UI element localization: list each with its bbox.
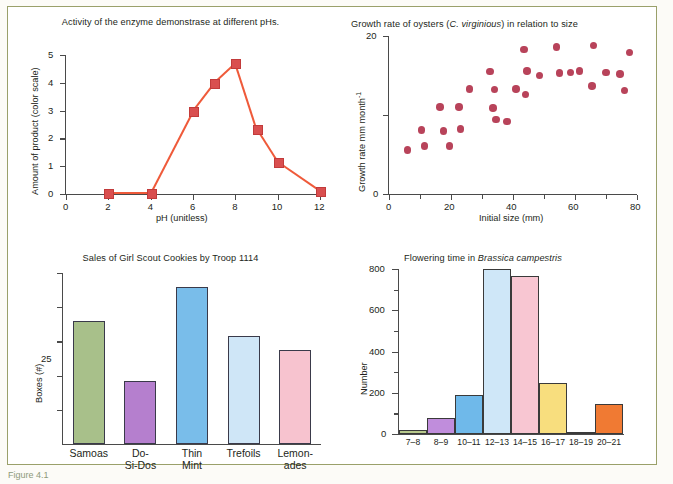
flowering-y-tick	[392, 269, 398, 270]
cookie-y-tick	[57, 376, 62, 377]
flowering-title-pre: Flowering time in	[404, 253, 478, 263]
oyster-title-pre: Growth rate of oysters (	[351, 19, 449, 29]
enzyme-y-tick	[60, 166, 65, 167]
oyster-data-point	[436, 103, 444, 111]
cookie-bar	[176, 287, 208, 444]
cookie-bar-label: Samoas	[63, 447, 115, 459]
enzyme-data-marker	[210, 79, 220, 89]
enzyme-y-tick	[60, 83, 65, 84]
oyster-chart-title: Growth rate of oysters (C. virginious) i…	[351, 19, 641, 29]
oyster-data-point	[556, 69, 564, 77]
oyster-x-tick-minor	[606, 195, 607, 199]
flowering-bar-label: 8–9	[427, 437, 455, 447]
oyster-data-point	[512, 85, 520, 93]
enzyme-x-ticklabel: 12	[314, 202, 325, 212]
oyster-y-ticklabel: 0	[373, 189, 378, 199]
oyster-y-ticklabel: 20	[366, 31, 377, 41]
oyster-x-ticklabel: 40	[506, 202, 517, 212]
figure-frame: Activity of the enzyme demonstrase at di…	[7, 6, 657, 465]
flowering-y-ticklabel: 600	[369, 305, 385, 315]
enzyme-data-marker	[253, 125, 263, 135]
oyster-data-point	[486, 68, 494, 76]
flowering-x-axis	[398, 434, 624, 435]
oyster-data-point	[590, 42, 598, 50]
oyster-data-point	[404, 146, 412, 154]
enzyme-plot-area: 0 1 2 3 4 5 0 2 4 6 8 10 12	[66, 55, 320, 194]
flowering-y-tick	[392, 310, 398, 311]
oyster-data-point	[576, 67, 584, 75]
cookie-category-labels: SamoasDo- Si-DosThin MintTrefoilsLemon- …	[63, 447, 321, 475]
cookie-bar	[73, 321, 105, 444]
enzyme-y-ticklabel: 4	[48, 78, 53, 88]
enzyme-x-axis-title: pH (unitless)	[156, 213, 208, 223]
enzyme-x-ticklabel: 10	[272, 202, 283, 212]
cookie-x-axis	[62, 444, 321, 445]
flowering-bar	[427, 418, 455, 435]
enzyme-x-tick	[278, 195, 279, 200]
panel-oyster-growth: Growth rate of oysters (C. virginious) i…	[333, 7, 658, 235]
flowering-y-tick-minor	[394, 413, 398, 414]
oyster-y-tick	[383, 194, 388, 195]
flowering-bar-series	[399, 269, 623, 434]
flowering-bar	[483, 269, 511, 434]
flowering-plot-area: 0 200 400 600 800	[399, 269, 623, 434]
cookie-bar-series	[63, 273, 321, 444]
cookie-y-ticklabel: 25	[41, 354, 52, 364]
flowering-bar	[511, 276, 539, 434]
oyster-data-point	[503, 118, 511, 126]
enzyme-data-marker	[104, 189, 114, 199]
oyster-data-point	[602, 69, 610, 77]
oyster-data-point	[520, 46, 528, 54]
cookie-bar-label: Do- Si-Dos	[115, 447, 167, 471]
oyster-data-point	[492, 116, 500, 124]
oyster-x-tick	[637, 195, 638, 200]
oyster-title-species: C. virginious	[449, 19, 501, 29]
enzyme-data-marker	[316, 187, 326, 197]
enzyme-x-ticklabel: 0	[63, 202, 68, 212]
enzyme-data-series	[66, 55, 320, 194]
oyster-x-tick	[389, 195, 390, 200]
panel-enzyme-activity: Activity of the enzyme demonstrase at di…	[8, 7, 333, 235]
flowering-y-tick-minor	[394, 331, 398, 332]
enzyme-y-axis-title: Amount of product (color scale)	[30, 67, 40, 195]
oyster-data-point	[440, 127, 448, 135]
enzyme-x-ticklabel: 6	[190, 202, 195, 212]
enzyme-y-ticklabel: 2	[48, 133, 53, 143]
flowering-y-tick-minor	[394, 290, 398, 291]
panel-cookie-sales: Sales of Girl Scout Cookies by Troop 111…	[8, 235, 333, 466]
enzyme-line-segment	[108, 192, 150, 194]
enzyme-y-ticklabel: 0	[48, 189, 53, 199]
enzyme-data-marker	[231, 59, 241, 69]
flowering-bar-label: 14–15	[511, 437, 539, 447]
enzyme-x-tick	[193, 195, 194, 200]
flowering-bar-label: 12–13	[483, 437, 511, 447]
cookie-y-tick	[57, 307, 62, 308]
flowering-bar-label: 10–11	[455, 437, 483, 447]
enzyme-y-ticklabel: 5	[48, 50, 53, 60]
oyster-y-axis-label: Growth rate mm month	[357, 98, 367, 192]
oyster-x-ticklabel: 20	[444, 202, 455, 212]
enzyme-chart-title: Activity of the enzyme demonstrase at di…	[8, 17, 333, 27]
flowering-y-tick-minor	[394, 372, 398, 373]
oyster-data-point	[523, 67, 531, 75]
enzyme-line-segment	[234, 63, 257, 129]
oyster-x-tick	[451, 195, 452, 200]
cookie-plot-area: 25	[63, 273, 321, 444]
oyster-data-point	[567, 69, 575, 77]
oyster-data-point	[421, 142, 429, 150]
cookie-bar-label: Trefoils	[218, 447, 270, 459]
enzyme-x-ticklabel: 4	[148, 202, 153, 212]
oyster-y-tick	[383, 36, 388, 37]
enzyme-x-tick	[235, 195, 236, 200]
oyster-x-tick	[513, 195, 514, 200]
oyster-data-point	[491, 86, 499, 94]
flowering-bar	[399, 430, 427, 434]
enzyme-y-tick	[60, 55, 65, 56]
oyster-data-point	[457, 125, 465, 133]
oyster-data-point	[489, 104, 497, 112]
flowering-category-labels: 7–88–910–1112–1314–1516–1718–1920–21	[399, 437, 623, 453]
oyster-data-point	[536, 72, 544, 80]
enzyme-data-marker	[147, 189, 157, 199]
flowering-bar	[595, 404, 623, 434]
cookie-bar	[228, 336, 260, 444]
